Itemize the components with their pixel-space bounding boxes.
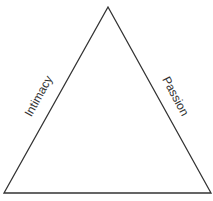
- triangle-diagram: Intimacy Passion: [0, 0, 213, 201]
- label-intimacy: Intimacy: [22, 73, 56, 119]
- label-passion: Passion: [159, 74, 191, 118]
